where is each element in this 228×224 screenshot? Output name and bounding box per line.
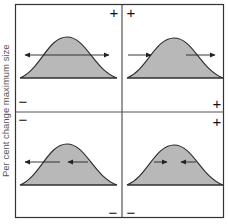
plus-sign-top-right: + — [127, 4, 136, 21]
quadrant-top-left — [20, 37, 117, 78]
minus-sign-bottom-left: − — [109, 204, 118, 221]
quadrant-bottom-right — [127, 145, 223, 185]
quadrant-top-right — [127, 38, 223, 78]
distribution-curve — [127, 38, 223, 78]
selection-diagram: + + − − + + − − — [0, 0, 228, 224]
distribution-curve — [20, 37, 117, 78]
minus-sign-left-lower: − — [19, 111, 28, 128]
plus-sign-right-upper: + — [213, 95, 222, 112]
distribution-curve — [20, 144, 117, 185]
quadrant-bottom-left — [20, 144, 117, 185]
plus-sign-top-left: + — [110, 4, 119, 21]
minus-sign-bottom-right: − — [127, 204, 136, 221]
plus-sign-right-lower: + — [213, 113, 222, 130]
minus-sign-left-upper: − — [19, 93, 28, 110]
distribution-curve — [127, 145, 223, 185]
